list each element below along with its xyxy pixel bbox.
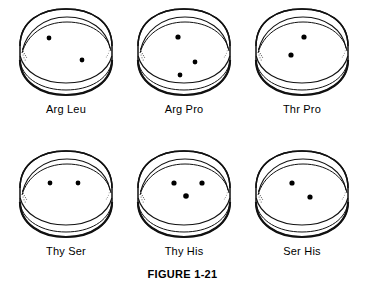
dish-rim-stipple-5	[262, 57, 263, 58]
dish-rim-stipple-right-3	[108, 195, 109, 196]
dish-rim-stipple-right-5	[342, 199, 343, 200]
dish-rim-stipple-3	[142, 195, 143, 196]
petri-dish-drawing	[246, 4, 358, 102]
dish-rim-stipple-1	[140, 48, 141, 49]
dish-rim-stipple-5	[262, 199, 263, 200]
dish-rim-stipple-right-2	[109, 50, 110, 51]
dish-rim-stipple-7	[23, 57, 24, 58]
dish-rim-stipple-right-3	[226, 53, 227, 54]
dish-rim-stipple-4	[143, 197, 144, 198]
dish-rim-stipple-1	[258, 190, 259, 191]
dish-rim-stipple-8	[261, 201, 262, 202]
dish-rim-stipple-right-2	[345, 192, 346, 193]
dish-rim-stipple-2	[23, 51, 24, 52]
dish-rim-stipple-right-1	[109, 48, 110, 49]
dish-rim-stipple-4	[25, 197, 26, 198]
petri-dish: Ser His	[246, 146, 358, 268]
petri-dish-label: Thy His	[128, 244, 240, 258]
petri-dish-drawing	[128, 4, 240, 102]
dish-rim-stipple-6	[23, 196, 24, 197]
bacterial-colony-3	[183, 193, 189, 199]
petri-dish-label: Thr Pro	[246, 102, 358, 116]
petri-dish-drawing	[10, 146, 122, 244]
petri-dish-label: Ser His	[246, 244, 358, 258]
dish-rim-stipple-right-4	[343, 55, 344, 56]
bacterial-colony-2	[80, 58, 85, 63]
bacterial-colony-1	[47, 36, 52, 41]
dish-rim-stipple-right-3	[344, 53, 345, 54]
dish-rim-stipple-right-2	[227, 50, 228, 51]
dish-rim-stipple-right-2	[109, 192, 110, 193]
figure-caption: FIGURE 1-21	[0, 268, 365, 280]
petri-dish: Thy His	[128, 146, 240, 268]
bacterial-colony-1	[301, 34, 306, 39]
bacterial-colony-2	[288, 52, 293, 57]
petri-dish: Thy Ser	[10, 146, 122, 268]
dish-rim-stipple-right-5	[106, 199, 107, 200]
dish-rim-stipple-right-2	[345, 50, 346, 51]
bacterial-colony-2	[193, 60, 198, 65]
petri-dish: Arg Pro	[128, 4, 240, 126]
dish-rim-stipple-4	[143, 55, 144, 56]
petri-dish-label: Arg Leu	[10, 102, 122, 116]
bacterial-colony-1	[171, 180, 176, 185]
dish-rim-stipple-right-3	[226, 195, 227, 196]
dish-rim-stipple-6	[259, 54, 260, 55]
dish-rim-stipple-right-1	[227, 190, 228, 191]
dish-rim-stipple-5	[26, 57, 27, 58]
dish-rim-stipple-right-3	[344, 195, 345, 196]
dish-rim-stipple-7	[141, 57, 142, 58]
dish-rim-stipple-right-1	[227, 48, 228, 49]
dish-rim-stipple-8	[143, 201, 144, 202]
dish-rim-stipple-6	[259, 196, 260, 197]
bacterial-colony-1	[48, 181, 53, 186]
dish-rim-stipple-4	[261, 197, 262, 198]
dish-rim-stipple-7	[259, 57, 260, 58]
dish-rim-stipple-2	[141, 193, 142, 194]
dish-rim-stipple-5	[26, 199, 27, 200]
petri-dish-drawing	[10, 4, 122, 102]
bacterial-colony-3	[178, 73, 183, 78]
dish-rim-stipple-3	[260, 53, 261, 54]
dish-rim-stipple-2	[259, 51, 260, 52]
dish-rim-stipple-5	[144, 199, 145, 200]
dish-rim-stipple-2	[141, 51, 142, 52]
dish-rim-stipple-right-2	[227, 192, 228, 193]
petri-dish-grid: Arg LeuArg ProThr ProThy SerThy HisSer H…	[0, 0, 365, 292]
dish-rim-stipple-right-1	[109, 190, 110, 191]
dish-rim-stipple-right-5	[224, 199, 225, 200]
dish-rim-stipple-3	[260, 195, 261, 196]
dish-rim-stipple-3	[24, 195, 25, 196]
petri-dish-label: Thy Ser	[10, 244, 122, 258]
bacterial-colony-2	[76, 181, 81, 186]
dish-rim-stipple-right-4	[107, 55, 108, 56]
petri-dish: Thr Pro	[246, 4, 358, 126]
dish-rim-stipple-4	[261, 55, 262, 56]
dish-rim-stipple-2	[259, 193, 260, 194]
dish-rim-stipple-7	[23, 199, 24, 200]
dish-rim-stipple-right-1	[345, 190, 346, 191]
dish-rim-stipple-7	[259, 199, 260, 200]
dish-rim-stipple-2	[23, 193, 24, 194]
dish-rim-stipple-8	[25, 201, 26, 202]
dish-rim-stipple-right-1	[345, 48, 346, 49]
dish-rim-stipple-6	[141, 196, 142, 197]
dish-rim-stipple-1	[140, 190, 141, 191]
bacterial-colony-2	[307, 194, 312, 199]
dish-rim-stipple-right-5	[106, 57, 107, 58]
dish-rim-stipple-8	[143, 59, 144, 60]
bacterial-colony-1	[175, 34, 180, 39]
bacterial-colony-1	[289, 180, 294, 185]
dish-rim-stipple-right-4	[343, 197, 344, 198]
dish-rim-stipple-1	[22, 190, 23, 191]
dish-rim-stipple-right-4	[225, 55, 226, 56]
dish-rim-stipple-right-4	[225, 197, 226, 198]
petri-dish-label: Arg Pro	[128, 102, 240, 116]
dish-rim-stipple-1	[258, 48, 259, 49]
petri-dish: Arg Leu	[10, 4, 122, 126]
dish-rim-stipple-3	[24, 53, 25, 54]
dish-rim-stipple-7	[141, 199, 142, 200]
dish-rim-stipple-6	[141, 54, 142, 55]
dish-rim-stipple-right-3	[108, 53, 109, 54]
dish-rim-stipple-right-4	[107, 197, 108, 198]
